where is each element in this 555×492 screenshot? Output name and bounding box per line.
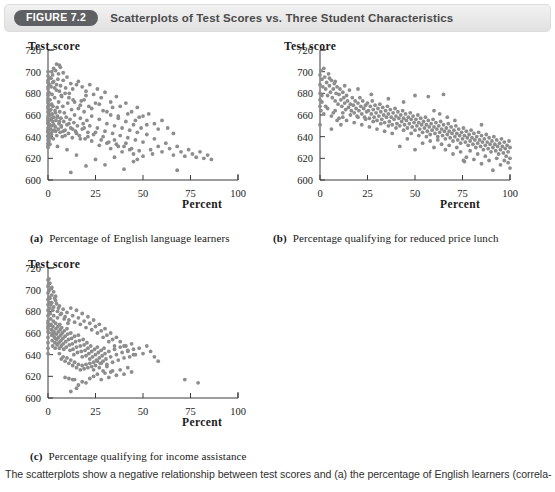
svg-text:680: 680 (25, 306, 41, 317)
subcaption-b: (b)Percentage qualifying for reduced pri… (273, 232, 499, 244)
svg-text:700: 700 (25, 67, 41, 78)
figure-body-caption: The scatterplots show a negative relatio… (5, 468, 553, 480)
svg-text:0: 0 (45, 406, 50, 417)
svg-text:600: 600 (25, 393, 41, 404)
svg-text:50: 50 (410, 188, 421, 199)
subcaption-text-c: Percentage qualifying for income assista… (49, 450, 247, 462)
figure-number-badge: FIGURE 7.2 (14, 10, 98, 27)
svg-text:50: 50 (138, 406, 149, 417)
subcaption-label-b: (b) (273, 232, 287, 244)
svg-text:25: 25 (90, 406, 101, 417)
svg-text:600: 600 (297, 175, 313, 186)
svg-text:0: 0 (317, 188, 322, 199)
svg-text:680: 680 (25, 88, 41, 99)
y-axis-title-a: Test score (28, 40, 80, 52)
svg-text:660: 660 (297, 110, 313, 121)
y-axis-title-b: Test score (284, 40, 336, 52)
svg-text:50: 50 (138, 188, 149, 199)
svg-text:640: 640 (25, 350, 41, 361)
svg-text:700: 700 (297, 67, 313, 78)
svg-text:100: 100 (230, 406, 246, 417)
svg-text:620: 620 (297, 153, 313, 164)
subcaption-text-b: Percentage qualifying for reduced price … (293, 232, 499, 244)
x-axis-title-b: Percent (440, 198, 480, 210)
figure-header-bar: FIGURE 7.2 Scatterplots of Test Scores v… (4, 4, 551, 32)
svg-text:700: 700 (25, 285, 41, 296)
scatter-canvas-a: 6006206406606807007200255075100 (0, 40, 250, 215)
svg-text:100: 100 (230, 188, 246, 199)
scatter-canvas-b: 6006206406606807007200255075100 (272, 40, 522, 215)
subcaption-a: (a)Percentage of English language learne… (30, 232, 230, 244)
svg-text:600: 600 (25, 175, 41, 186)
scatter-canvas-c: 6006206406606807007200255075100 (0, 258, 250, 433)
scatterplot-panel-a: Test score 60062064066068070072002550751… (0, 40, 250, 215)
scatterplot-panel-c: Test score 60062064066068070072002550751… (0, 258, 250, 433)
svg-text:100: 100 (502, 188, 518, 199)
svg-text:0: 0 (45, 188, 50, 199)
svg-text:640: 640 (25, 132, 41, 143)
scatterplot-panel-b: Test score 60062064066068070072002550751… (272, 40, 522, 215)
x-axis-title-c: Percent (182, 416, 222, 428)
subcaption-c: (c)Percentage qualifying for income assi… (30, 450, 246, 462)
svg-text:680: 680 (297, 88, 313, 99)
y-axis-title-c: Test score (28, 258, 80, 270)
figure-title: Scatterplots of Test Scores vs. Three St… (110, 12, 453, 24)
subcaption-label-a: (a) (30, 232, 43, 244)
svg-text:660: 660 (25, 328, 41, 339)
svg-text:640: 640 (297, 132, 313, 143)
svg-text:620: 620 (25, 153, 41, 164)
subcaption-label-c: (c) (30, 450, 43, 462)
x-axis-title-a: Percent (182, 198, 222, 210)
svg-text:660: 660 (25, 110, 41, 121)
svg-text:25: 25 (362, 188, 373, 199)
subcaption-text-a: Percentage of English language learners (49, 232, 229, 244)
svg-text:620: 620 (25, 371, 41, 382)
svg-text:25: 25 (90, 188, 101, 199)
